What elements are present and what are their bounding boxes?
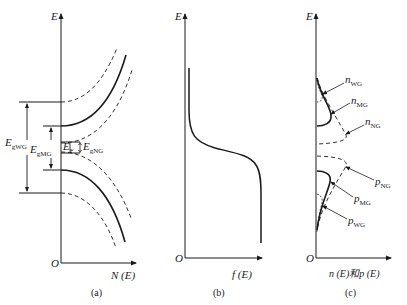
egng-label: EgNG [83, 141, 103, 152]
panel-c-x-label: n (E)和p (E) [329, 269, 380, 279]
p-wg-sub: WG [354, 221, 366, 229]
panel-b [185, 14, 262, 258]
p-ng-curve [317, 156, 346, 230]
egmg-label: EgMG [30, 144, 52, 155]
panel-b-x-label: f (E) [232, 269, 252, 280]
egmg-main: E [30, 143, 37, 155]
egwg-main: E [5, 136, 12, 148]
ef-sub: F [70, 147, 74, 155]
p-wg-leader [323, 206, 347, 219]
n-ng-label: nNG [365, 116, 381, 127]
n-mg-leader [331, 103, 350, 114]
egmg-sub: gMG [37, 150, 52, 158]
panel-a [19, 14, 136, 263]
n-ng-sub: NG [371, 122, 381, 130]
panel-a-y-label: E [51, 11, 58, 22]
n-ng-leader [346, 125, 364, 134]
panel-b-origin-label: O [175, 253, 183, 264]
conduction-band-wg-curve [61, 48, 117, 102]
panel-c-origin-label: O [306, 253, 314, 264]
n-wg-label: nWG [345, 74, 362, 85]
p-wg-main: p [348, 214, 354, 226]
n-ng-curve [317, 78, 346, 144]
conduction-band-ng-curve [61, 70, 132, 143]
panel-c-caption: (c) [345, 288, 356, 298]
n-mg-main: n [351, 94, 357, 106]
p-ng-label: pNG [375, 176, 391, 187]
egwg-label: EgWG [5, 137, 27, 148]
panel-a-x-label: N (E) [111, 270, 135, 281]
p-ng-leader [346, 167, 374, 180]
p-mg-curve [317, 171, 330, 230]
p-ng-main: p [375, 175, 381, 187]
egng-main: E [83, 140, 90, 152]
p-ng-sub: NG [381, 182, 391, 190]
fermi-dirac-curve [189, 68, 261, 243]
p-mg-sub: MG [360, 199, 371, 207]
band-diagram-figure [0, 0, 407, 305]
panel-a-origin-label: O [51, 258, 59, 269]
egwg-sub: gWG [12, 143, 27, 151]
p-wg-label: pWG [348, 215, 365, 226]
p-mg-main: p [354, 192, 360, 204]
panel-c-y-label: E [306, 11, 313, 22]
n-wg-leader [323, 83, 344, 94]
ef-label: EF [63, 141, 74, 152]
n-wg-sub: WG [351, 80, 363, 88]
p-mg-label: pMG [354, 193, 371, 204]
egng-sub: gNG [90, 147, 104, 155]
valence-band-mg-curve [61, 170, 125, 242]
n-mg-label: nMG [351, 95, 368, 106]
panel-b-caption: (b) [213, 288, 225, 298]
n-ng-main: n [365, 115, 371, 127]
n-mg-sub: MG [357, 101, 368, 109]
n-wg-main: n [345, 73, 351, 85]
conduction-band-mg-curve [61, 55, 126, 126]
panel-b-y-label: E [175, 11, 182, 22]
panel-a-caption: (a) [91, 288, 102, 298]
ef-main: E [63, 140, 70, 152]
p-mg-leader [331, 182, 353, 197]
